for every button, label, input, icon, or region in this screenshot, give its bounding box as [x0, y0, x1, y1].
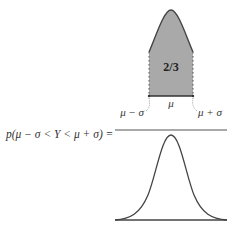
equation-lhs: p(μ − σ < Y < μ + σ) =	[5, 128, 113, 141]
shaded-region-numerator: 2/3 μ μ − σ μ + σ	[119, 10, 222, 118]
diagram-canvas: 2/3 μ μ − σ μ + σ p(μ − σ < Y < μ + σ) =	[0, 0, 234, 230]
mu-label: μ	[167, 97, 174, 109]
full-normal-curve-denominator	[115, 135, 227, 220]
right-bound-label: μ + σ	[197, 106, 222, 118]
left-bound-label: μ − σ	[119, 106, 144, 118]
normal-probability-diagram: 2/3 μ μ − σ μ + σ p(μ − σ < Y < μ + σ) =	[0, 0, 234, 230]
area-label: 2/3	[163, 60, 178, 74]
